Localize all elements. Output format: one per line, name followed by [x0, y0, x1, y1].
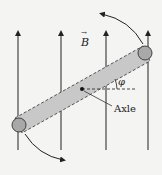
field-label: B — [80, 36, 89, 49]
rotating-rod-diagram: → B φ Axle — [0, 0, 162, 175]
axle-leader-line — [84, 91, 112, 106]
sphere-top-right — [138, 46, 152, 60]
axle-dot — [80, 87, 84, 91]
sphere-bottom-left — [12, 118, 26, 132]
rotation-arrow-top — [102, 14, 143, 44]
rotation-arrow-bottom — [25, 134, 63, 160]
diagram-canvas: → B φ Axle — [0, 0, 162, 175]
axle-label: Axle — [113, 103, 136, 114]
angle-label: φ — [118, 76, 125, 87]
